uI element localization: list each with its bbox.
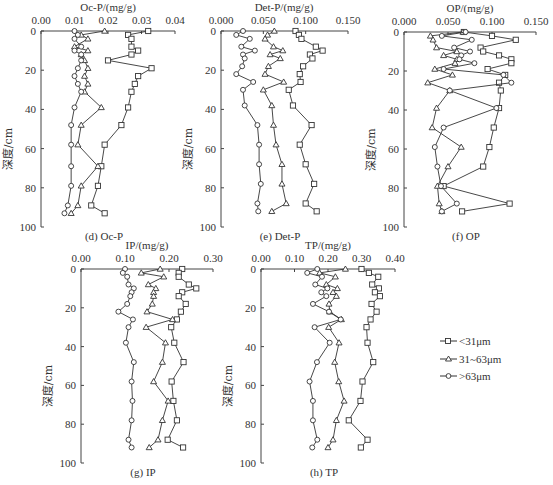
triangle-marker-icon xyxy=(85,65,91,70)
circle-marker-icon xyxy=(338,317,343,322)
circle-marker-icon xyxy=(255,123,260,128)
square-marker-icon xyxy=(370,282,375,287)
square-marker-icon xyxy=(129,44,134,49)
square-marker-icon xyxy=(180,445,185,450)
panel-oc-p: 0.000.010.020.030.04020406080100Oc-P/(mg… xyxy=(1,1,185,243)
panel-caption: (e) Det-P xyxy=(260,230,301,243)
x-tick-label: 0.150 xyxy=(336,14,361,26)
circle-marker-icon xyxy=(75,81,80,86)
square-marker-icon xyxy=(358,445,363,450)
square-marker-icon xyxy=(136,48,141,53)
y-tick-label: 60 xyxy=(25,143,37,155)
circle-marker-icon xyxy=(123,340,128,345)
square-marker-icon xyxy=(172,340,177,345)
circle-marker-icon xyxy=(72,48,77,53)
square-marker-icon xyxy=(487,144,492,149)
series-line xyxy=(349,269,380,447)
triangle-marker-icon xyxy=(332,359,338,364)
circle-marker-icon xyxy=(315,267,320,272)
triangle-marker-icon xyxy=(159,359,165,364)
series-triangle xyxy=(138,266,175,450)
circle-marker-icon xyxy=(472,61,477,66)
circle-marker-icon xyxy=(435,164,440,169)
circle-marker-icon xyxy=(441,125,446,130)
x-tick-label: 0.100 xyxy=(480,15,505,27)
y-tick-label: 40 xyxy=(245,341,257,353)
circle-marker-icon xyxy=(256,209,261,214)
circle-marker-icon xyxy=(126,437,131,442)
legend-item-coarse: >63μm xyxy=(440,370,491,382)
circle-marker-icon xyxy=(432,145,437,150)
triangle-marker-icon xyxy=(330,437,336,442)
square-marker-icon xyxy=(183,301,188,306)
square-marker-icon xyxy=(176,274,181,279)
panel-caption: (f) OP xyxy=(452,230,480,243)
square-marker-icon xyxy=(303,201,308,206)
circle-marker-icon xyxy=(130,317,135,322)
circle-marker-icon xyxy=(251,79,256,84)
square-marker-icon xyxy=(309,122,314,127)
y-tick-label: 100 xyxy=(60,457,77,469)
square-marker-icon xyxy=(297,72,302,77)
circle-marker-icon xyxy=(327,340,332,345)
square-marker-icon xyxy=(374,309,379,314)
square-marker-icon xyxy=(169,379,174,384)
circle-marker-icon xyxy=(116,309,121,314)
triangle-marker-icon xyxy=(144,309,150,314)
triangle-marker-icon xyxy=(155,437,161,442)
circle-marker-icon xyxy=(126,282,131,287)
circle-marker-icon xyxy=(120,270,125,275)
circle-marker-icon xyxy=(509,80,514,85)
y-tick-label: 0 xyxy=(31,25,37,37)
square-marker-icon xyxy=(377,294,382,299)
circle-marker-icon xyxy=(327,309,332,314)
circle-marker-icon xyxy=(247,36,252,41)
y-tick-label: 20 xyxy=(65,302,77,314)
y-tick-label: 60 xyxy=(205,143,217,155)
y-axis-label: 深度/cm xyxy=(181,127,195,170)
panel-op: 0.0000.0500.1000.150020406080100OP/(mg/g… xyxy=(364,2,549,243)
x-tick-label: 0.30 xyxy=(352,252,372,264)
square-marker-icon xyxy=(314,209,319,214)
x-tick-label: 0.050 xyxy=(251,14,276,26)
square-marker-icon xyxy=(286,87,291,92)
x-tick-label: 0.10 xyxy=(115,252,135,264)
panel-caption: (h) TP xyxy=(310,466,338,479)
triangle-marker-icon xyxy=(283,200,289,205)
y-axis-label: 深度/cm xyxy=(41,364,55,407)
triangle-marker-icon xyxy=(279,181,285,186)
series-triangle xyxy=(68,28,108,215)
circle-marker-icon xyxy=(457,57,462,62)
x-tick-label: 0.10 xyxy=(285,252,305,264)
square-marker-icon xyxy=(369,301,374,306)
square-marker-icon xyxy=(446,339,451,344)
square-marker-icon xyxy=(132,81,137,86)
series-triangle xyxy=(260,28,289,214)
triangle-marker-icon xyxy=(82,73,88,78)
circle-marker-icon xyxy=(130,398,135,403)
circle-marker-icon xyxy=(69,142,74,147)
square-marker-icon xyxy=(498,88,503,93)
circle-marker-icon xyxy=(305,270,310,275)
series-circle xyxy=(234,29,264,214)
circle-marker-icon xyxy=(463,30,468,35)
circle-marker-icon xyxy=(79,44,84,49)
circle-marker-icon xyxy=(72,105,77,110)
square-marker-icon xyxy=(169,325,174,330)
series-square xyxy=(346,266,382,450)
x-tick-label: 0.30 xyxy=(203,252,223,264)
circle-marker-icon xyxy=(126,325,131,330)
x-tick-label: 0.20 xyxy=(159,252,179,264)
triangle-marker-icon xyxy=(333,417,339,422)
y-axis-label: 深度/cm xyxy=(364,128,378,171)
square-marker-icon xyxy=(459,209,464,214)
y-axis-label: 深度/cm xyxy=(221,364,235,407)
circle-marker-icon xyxy=(128,294,133,299)
square-marker-icon xyxy=(126,105,131,110)
square-marker-icon xyxy=(312,181,317,186)
circle-marker-icon xyxy=(313,282,318,287)
panel-ip: 0.000.100.200.30020406080100IP/(mg/g)(g)… xyxy=(41,239,223,479)
y-tick-label: 40 xyxy=(65,341,77,353)
square-marker-icon xyxy=(364,325,369,330)
y-tick-label: 20 xyxy=(245,302,257,314)
